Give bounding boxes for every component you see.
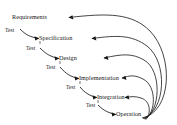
waterfall-diagram: Requirements Specification Design Implem… — [0, 0, 177, 125]
stage-label-specification: Specification — [39, 35, 72, 41]
connector-implementation-to-integration — [80, 87, 97, 98]
connector-design-to-implementation — [60, 67, 79, 79]
transition-label-test-2: Test — [26, 46, 35, 52]
stage-label-implementation: Implementation — [79, 75, 119, 81]
stage-label-operation: Operation — [116, 111, 141, 117]
feedback-arcs — [69, 15, 167, 120]
arrowhead-feedback-requirements — [69, 15, 74, 19]
arrowhead-feedback-design — [104, 56, 109, 60]
arrowhead-feedback-implementation — [122, 76, 127, 80]
stage-underticks — [40, 41, 98, 103]
connector-specification-to-design — [40, 48, 59, 59]
stage-label-requirements: Requirements — [12, 14, 47, 20]
arrowhead-feedback-integration — [125, 95, 130, 99]
cascade-connectors — [20, 29, 116, 117]
transition-label-test-4: Test — [66, 85, 75, 91]
transition-label-test-3: Test — [46, 65, 55, 71]
transition-label-test-5: Test — [86, 103, 95, 109]
stage-label-integration: Integration — [97, 94, 125, 100]
transition-label-test-1: Test — [5, 28, 14, 34]
arrowhead-feedback-specification — [92, 36, 97, 40]
connector-integration-to-operation — [98, 105, 116, 115]
arc-to-requirements — [69, 15, 166, 118]
stage-label-design: Design — [59, 55, 77, 61]
